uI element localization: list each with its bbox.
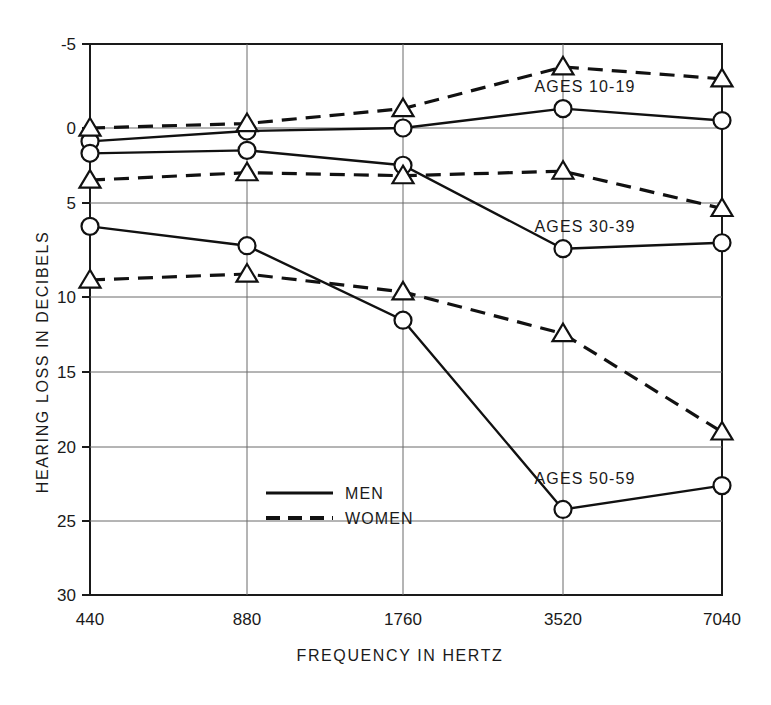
marker-circle [714,477,731,494]
marker-circle [555,100,572,117]
x-tick-label-0: 440 [76,610,104,629]
marker-circle [395,312,412,329]
hearing-loss-chart-figure: -5 0 5 10 15 20 25 30 440 880 1760 3520 … [0,0,771,705]
legend-label-men: MEN [345,485,384,502]
y-tick-label-3: 10 [57,288,76,307]
y-tick-label-5: 20 [57,438,76,457]
x-tick-labels: 440 880 1760 3520 7040 [76,610,741,629]
marker-circle [714,234,731,251]
x-tick-label-1: 880 [233,610,261,629]
legend-label-women: WOMEN [345,510,414,527]
x-axis-title: FREQUENCY IN HERTZ [297,647,504,664]
annotation-ages-10-19: AGES 10-19 [535,78,636,95]
annotation-ages-50-59: AGES 50-59 [535,470,636,487]
marker-circle [555,240,572,257]
marker-circle [395,120,412,137]
y-tick-label-7: 30 [57,586,76,605]
y-tick-label-2: 5 [67,194,76,213]
y-tick-labels: -5 0 5 10 15 20 25 30 [57,35,76,605]
x-tick-label-4: 7040 [703,610,741,629]
x-tick-label-3: 3520 [544,610,582,629]
y-tick-label-1: 0 [67,119,76,138]
y-axis-title: HEARING LOSS IN DECIBELS [34,231,51,493]
marker-circle [714,112,731,129]
marker-circle [82,145,99,162]
y-tick-label-0: -5 [61,35,76,54]
marker-circle [239,142,256,159]
x-tick-label-2: 1760 [384,610,422,629]
chart-svg: -5 0 5 10 15 20 25 30 440 880 1760 3520 … [0,0,771,705]
marker-circle [555,501,572,518]
marker-circle [239,237,256,254]
y-tick-label-6: 25 [57,512,76,531]
marker-circle [82,218,99,235]
annotation-ages-30-39: AGES 30-39 [535,218,636,235]
y-tick-label-4: 15 [57,363,76,382]
